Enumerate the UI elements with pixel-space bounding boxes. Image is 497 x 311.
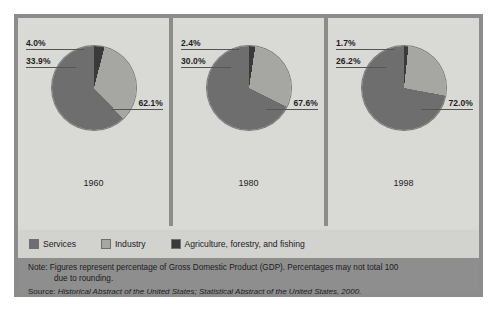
leader-line-industry-1960: [26, 67, 76, 68]
pie-panel-1998: 1.7% 26.2% 72.0% 1998: [328, 18, 479, 226]
notes-block: Note: Figures represent percentage of Gr…: [18, 258, 479, 293]
legend-label-industry: Industry: [115, 239, 146, 249]
legend-item-industry: Industry: [102, 239, 146, 249]
legend-swatch-agriculture-icon: [172, 240, 180, 248]
pie-label-services-1980: 67.6%: [293, 98, 318, 108]
pie-label-agriculture-1960: 4.0%: [26, 38, 46, 48]
year-label-1980: 1980: [173, 178, 324, 188]
leader-line-services-1960: [111, 109, 163, 110]
pie-label-industry-1960: 33.9%: [26, 56, 51, 66]
pie-wrap-1960: [52, 46, 136, 130]
leader-line-services-1980: [266, 109, 318, 110]
chart-legend: Services Industry Agriculture, forestry,…: [18, 230, 479, 258]
pie-label-services-1998: 72.0%: [448, 98, 473, 108]
source-line: Source: Historical Abstract of the Unite…: [28, 286, 469, 297]
pie-chart-1998: [362, 46, 446, 130]
pie-chart-1980: [207, 46, 291, 130]
year-label-1960: 1960: [18, 178, 169, 188]
leader-line-agriculture-1980: [181, 49, 239, 50]
pie-wrap-1980: [207, 46, 291, 130]
leader-line-agriculture-1998: [336, 49, 394, 50]
pie-panel-1960: 4.0% 33.9% 62.1% 1960: [18, 18, 169, 226]
pie-wrap-1998: [362, 46, 446, 130]
legend-item-agriculture: Agriculture, forestry, and fishing: [172, 239, 305, 249]
source-title: Historical Abstract of the United States…: [58, 287, 362, 296]
legend-item-services: Services: [30, 239, 76, 249]
pie-panels-row: 4.0% 33.9% 62.1% 1960 2.4% 30.0% 67.6% 1…: [18, 18, 479, 226]
note-line-2: due to rounding.: [28, 274, 469, 285]
leader-line-industry-1980: [181, 67, 231, 68]
leader-line-industry-1998: [336, 67, 386, 68]
leader-line-services-1998: [421, 109, 473, 110]
figure-container: 4.0% 33.9% 62.1% 1960 2.4% 30.0% 67.6% 1…: [14, 14, 483, 297]
pie-chart-1960: [52, 46, 136, 130]
pie-label-industry-1980: 30.0%: [181, 56, 206, 66]
legend-swatch-services-icon: [30, 240, 38, 248]
year-label-1998: 1998: [328, 178, 479, 188]
pie-label-agriculture-1998: 1.7%: [336, 38, 356, 48]
pie-label-services-1960: 62.1%: [138, 98, 163, 108]
note-line-1: Note: Figures represent percentage of Gr…: [28, 263, 469, 274]
pie-label-industry-1998: 26.2%: [336, 56, 361, 66]
pie-panel-1980: 2.4% 30.0% 67.6% 1980: [173, 18, 324, 226]
leader-line-agriculture-1960: [26, 49, 84, 50]
legend-swatch-industry-icon: [102, 240, 110, 248]
legend-label-services: Services: [43, 239, 76, 249]
source-label: Source:: [28, 287, 58, 296]
legend-label-agriculture: Agriculture, forestry, and fishing: [185, 239, 305, 249]
pie-label-agriculture-1980: 2.4%: [181, 38, 201, 48]
